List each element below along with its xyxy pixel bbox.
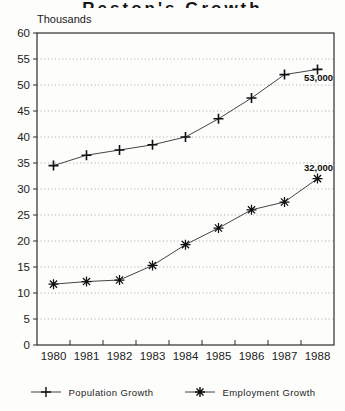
series-line-asterisk (54, 179, 318, 285)
y-axis-tick-label: 35 (17, 157, 30, 169)
asterisk-marker-icon (184, 386, 216, 398)
y-axis-tick-label: 30 (17, 183, 30, 195)
y-axis-tick-label: 45 (17, 105, 30, 117)
x-axis-tick-label: 1985 (206, 350, 232, 362)
legend: Population Growth Employment Growth (0, 384, 345, 400)
x-axis-tick-label: 1980 (41, 350, 67, 362)
asterisk-marker (115, 275, 125, 285)
x-axis-tick-label: 1986 (239, 350, 265, 362)
asterisk-marker (280, 197, 290, 207)
legend-label-population: Population Growth (69, 387, 154, 398)
plus-marker (214, 114, 224, 124)
y-axis-tick-label: 60 (17, 27, 30, 39)
asterisk-marker (148, 260, 158, 270)
legend-item-population: Population Growth (30, 386, 154, 398)
legend-item-employment: Employment Growth (184, 386, 316, 398)
x-axis-tick-label: 1988 (305, 350, 331, 362)
chart-page: Reston's Growth Thousands 05101520253035… (0, 0, 345, 411)
plus-marker (181, 132, 191, 142)
y-axis-tick-label: 20 (17, 235, 30, 247)
chart-canvas: 0510152025303540455055601980198119821983… (0, 0, 345, 380)
x-axis-tick-label: 1984 (173, 350, 199, 362)
series-end-label: 32,000 (304, 162, 333, 173)
x-axis-tick-label: 1983 (140, 350, 166, 362)
y-axis-tick-label: 10 (17, 287, 30, 299)
plus-marker (148, 140, 158, 150)
plus-marker (49, 161, 59, 171)
plus-marker (280, 70, 290, 80)
plus-marker (82, 150, 92, 160)
plus-marker (115, 145, 125, 155)
series-line-plus (54, 69, 318, 165)
y-axis-tick-label: 15 (17, 261, 30, 273)
plus-marker (247, 93, 257, 103)
asterisk-marker (181, 240, 191, 250)
y-axis-tick-label: 25 (17, 209, 30, 221)
series-end-label: 53,000 (304, 72, 333, 83)
y-axis-tick-label: 50 (17, 79, 30, 91)
x-axis-tick-label: 1982 (107, 350, 133, 362)
y-axis-tick-label: 40 (17, 131, 30, 143)
y-axis-tick-label: 0 (24, 339, 30, 351)
asterisk-marker (49, 279, 59, 289)
asterisk-marker (214, 223, 224, 233)
plus-marker-icon (30, 386, 62, 398)
x-axis-tick-label: 1981 (74, 350, 100, 362)
x-axis-tick-label: 1987 (272, 350, 298, 362)
legend-label-employment: Employment Growth (223, 387, 316, 398)
asterisk-marker (247, 205, 257, 215)
asterisk-marker (313, 174, 323, 184)
y-axis-tick-label: 5 (24, 313, 30, 325)
y-axis-tick-label: 55 (17, 53, 30, 65)
asterisk-marker (82, 277, 92, 287)
